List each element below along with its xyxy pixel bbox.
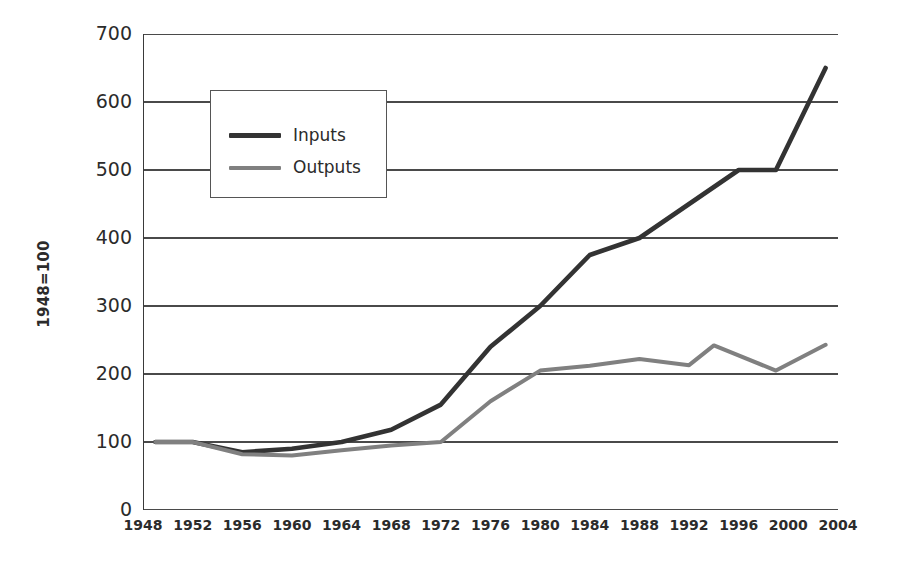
x-axis-tick-label: 1960	[272, 518, 311, 532]
legend-label-inputs: Inputs	[293, 127, 346, 144]
y-axis-tick-labels: 7006005004003002001000	[78, 0, 132, 568]
y-axis-tick-label: 200	[78, 364, 132, 383]
y-axis-tick-label: 100	[78, 432, 132, 451]
x-axis-tick-label: 1948	[124, 518, 163, 532]
x-axis-tick-labels: 1948195219561960196419681972197619801984…	[143, 518, 838, 548]
legend-line-swatch-inputs	[229, 133, 281, 138]
x-axis-tick-label: 1956	[223, 518, 262, 532]
y-axis-tick-label: 500	[78, 160, 132, 179]
x-axis-tick-label: 1984	[570, 518, 609, 532]
x-axis-tick-label: 2000	[769, 518, 808, 532]
legend-item-inputs: Inputs	[229, 127, 346, 144]
x-axis-tick-label: 1972	[421, 518, 460, 532]
line-chart: 1948=100 7006005004003002001000 19481952…	[0, 0, 897, 568]
x-axis-tick-label: 1996	[719, 518, 758, 532]
x-axis-tick-label: 1968	[372, 518, 411, 532]
y-axis-tick-label: 400	[78, 228, 132, 247]
legend-item-outputs: Outputs	[229, 159, 361, 176]
legend-line-swatch-outputs	[229, 166, 281, 170]
x-axis-tick-label: 1964	[322, 518, 361, 532]
y-axis-title: 1948=100	[14, 0, 74, 568]
y-axis-tick-label: 700	[78, 24, 132, 43]
x-axis-tick-label: 1976	[471, 518, 510, 532]
x-axis-tick-label: 1980	[521, 518, 560, 532]
legend: Inputs Outputs	[210, 90, 387, 198]
legend-label-outputs: Outputs	[293, 159, 361, 176]
x-axis-tick-label: 1988	[620, 518, 659, 532]
y-axis-tick-label: 300	[78, 296, 132, 315]
x-axis-tick-label: 1952	[173, 518, 212, 532]
y-axis-tick-label: 600	[78, 92, 132, 111]
series-line-outputs	[155, 345, 825, 456]
x-axis-tick-label: 1992	[670, 518, 709, 532]
x-axis-tick-label: 2004	[819, 518, 858, 532]
